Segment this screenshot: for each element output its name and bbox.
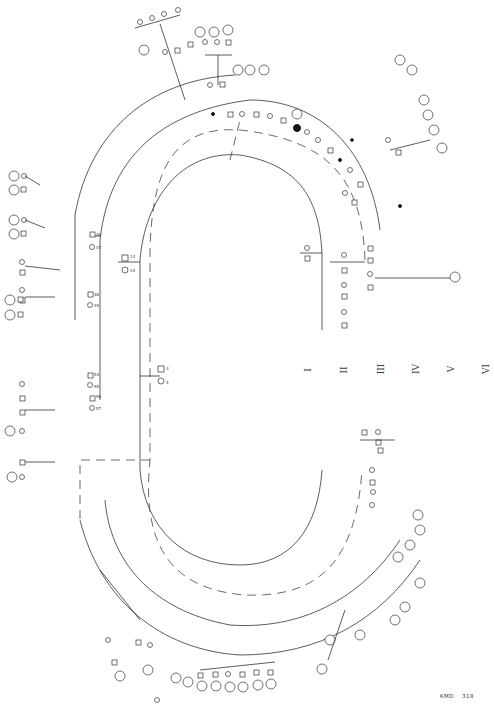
bottom-arc-individuals bbox=[317, 430, 425, 675]
svg-text:54: 54 bbox=[94, 372, 100, 377]
outer-lineage-arc-bottom-2 bbox=[80, 520, 420, 655]
svg-text:46: 46 bbox=[96, 232, 102, 237]
svg-text:48: 48 bbox=[94, 292, 100, 297]
outer-lineage-arc-top-2 bbox=[75, 75, 235, 215]
outer-lineage-arc-top bbox=[100, 100, 380, 240]
bottom-outer-individuals bbox=[100, 570, 276, 703]
svg-text:55: 55 bbox=[94, 384, 100, 389]
generation-label-1: I bbox=[303, 368, 313, 372]
svg-text:56: 56 bbox=[96, 394, 102, 399]
svg-text:49: 49 bbox=[94, 303, 100, 308]
generation-label-2: II bbox=[339, 366, 349, 373]
pedigree-diagram: 3 4 13 14 4647 4849 5455 5657 bbox=[0, 0, 494, 713]
dashed-lineage-line bbox=[148, 130, 365, 596]
inner-lineage-line bbox=[140, 155, 322, 565]
svg-text:47: 47 bbox=[96, 245, 102, 250]
generation-label-6: VI bbox=[481, 364, 491, 374]
svg-text:57: 57 bbox=[96, 406, 102, 411]
svg-text:4: 4 bbox=[166, 380, 169, 385]
right-branch bbox=[300, 246, 460, 331]
figure-footer: KMD318 bbox=[440, 693, 482, 699]
generation-label-5: V bbox=[446, 366, 456, 373]
svg-text:13: 13 bbox=[130, 254, 136, 259]
outer-lineage-arc-bottom bbox=[105, 500, 400, 626]
founder-couple: 3 4 bbox=[140, 366, 169, 385]
generation-label-3: III bbox=[376, 364, 386, 375]
generation-label-4: IV bbox=[411, 364, 421, 374]
outer-left-individuals bbox=[5, 171, 60, 482]
dashed-connector bbox=[80, 460, 150, 520]
dashed-connector-top bbox=[230, 120, 240, 160]
couple-13-14: 13 14 bbox=[118, 254, 140, 273]
footer-number: 318 bbox=[462, 693, 474, 699]
svg-text:3: 3 bbox=[166, 366, 169, 371]
svg-text:14: 14 bbox=[130, 268, 136, 273]
footer-code: KMD bbox=[440, 693, 454, 699]
top-arc-individuals bbox=[212, 55, 448, 208]
top-outer-individuals bbox=[135, 8, 269, 101]
left-couples: 4647 4849 5455 5657 bbox=[88, 232, 102, 411]
